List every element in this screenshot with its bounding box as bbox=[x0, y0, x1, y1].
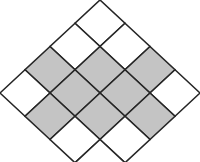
diamond-grid bbox=[0, 0, 200, 162]
